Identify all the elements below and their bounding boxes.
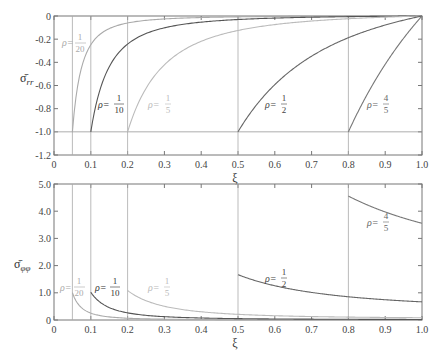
svg-text:1: 1	[117, 93, 122, 103]
label-rho-1-2-bottom: ρ=	[264, 273, 277, 284]
svg-text:5: 5	[384, 223, 389, 233]
curve-ρ=1/10	[91, 16, 422, 132]
curve-ρ=1/20	[72, 293, 422, 320]
label-rho-4-5-bottom: ρ=	[366, 217, 379, 228]
label-rho-4-5-top: ρ=	[366, 99, 379, 110]
x-tick-label: 0.2	[121, 159, 134, 170]
y-tick-label: -0.8	[35, 103, 51, 114]
curve-ρ=1/20	[72, 16, 422, 132]
x-tick-label: 0.4	[195, 159, 208, 170]
svg-text:4: 4	[384, 211, 389, 221]
bottom-curve-labels: ρ= 1 20 ρ= 1 10 ρ= 1 5 ρ= 1 2 ρ= 4 5	[59, 211, 389, 298]
bottom-curves	[72, 196, 422, 320]
y-tick-label: -0.4	[35, 57, 51, 68]
x-tick-label: 0.3	[158, 159, 171, 170]
svg-text:1: 1	[282, 267, 287, 277]
sigma-phiphi-plot: 01.02.03.04.05.0 00.10.20.30.40.50.60.70…	[14, 179, 428, 351]
y-tick-label: 0	[46, 315, 51, 326]
label-rho-1-10-top: ρ=	[97, 99, 110, 110]
x-tick-label: 0.7	[305, 324, 318, 335]
x-tick-label: 0.4	[195, 324, 208, 335]
svg-text:1: 1	[77, 276, 82, 286]
curve-ρ=1/5	[128, 16, 422, 132]
y-tick-label: 4.0	[39, 206, 52, 217]
label-rho-1-5-top: ρ=	[147, 99, 160, 110]
x-tick-label: 0.9	[379, 324, 392, 335]
top-y-axis-label: σ̄rr	[20, 71, 34, 87]
x-tick-label: 0.5	[232, 159, 245, 170]
top-x-axis-label: ξ	[232, 171, 238, 185]
svg-text:5: 5	[384, 105, 389, 115]
x-tick-label: 0.9	[379, 159, 392, 170]
label-rho-1-10-bottom: ρ=	[94, 282, 107, 293]
svg-text:1: 1	[165, 276, 170, 286]
svg-text:1: 1	[282, 93, 287, 103]
x-tick-label: 0.8	[342, 324, 355, 335]
x-tick-label: 0.3	[158, 324, 171, 335]
x-tick-label: 0.5	[232, 324, 245, 335]
label-rho-1-5-bottom: ρ=	[147, 282, 160, 293]
x-tick-label: 0.2	[121, 324, 134, 335]
x-tick-label: 0	[52, 324, 57, 335]
bottom-y-axis: 01.02.03.04.05.0	[39, 179, 423, 326]
y-tick-label: 3.0	[39, 233, 52, 244]
svg-text:1: 1	[166, 93, 171, 103]
x-tick-label: 0	[52, 159, 57, 170]
svg-text:1: 1	[113, 276, 118, 286]
top-reference-lines	[54, 16, 422, 155]
y-tick-label: 2.0	[39, 260, 52, 271]
top-curve-labels: ρ= 1 20 ρ= 1 10 ρ= 1 5 ρ= 1 2 ρ= 4 5	[61, 32, 389, 115]
bottom-x-axis-label: ξ	[232, 336, 238, 350]
curve-ρ=1/5	[128, 291, 422, 318]
x-tick-label: 0.1	[85, 159, 98, 170]
y-tick-label: 5.0	[39, 179, 52, 190]
y-tick-label: 0	[46, 11, 51, 22]
stress-distribution-figure: 0-0.2-0.4-0.6-0.8-1.0-1.2 00.10.20.30.40…	[0, 0, 446, 359]
label-frac-num: 1	[78, 32, 83, 42]
x-tick-label: 0.6	[269, 159, 282, 170]
y-tick-label: 1.0	[39, 287, 52, 298]
curve-ρ=1/2	[238, 16, 422, 132]
y-tick-label: -1.0	[35, 126, 51, 137]
svg-text:5: 5	[165, 288, 170, 298]
svg-text:4: 4	[384, 93, 389, 103]
svg-text:2: 2	[282, 105, 287, 115]
bottom-reference-lines	[72, 184, 348, 320]
x-tick-label: 0.7	[305, 159, 318, 170]
x-tick-label: 0.8	[342, 159, 355, 170]
svg-text:5: 5	[166, 105, 171, 115]
label-frac-den: 20	[76, 44, 86, 54]
label-rho-1-2-top: ρ=	[264, 99, 277, 110]
bottom-y-axis-label: σ̄φφ	[14, 257, 30, 273]
y-tick-label: -0.2	[35, 34, 51, 45]
x-tick-label: 0.1	[85, 324, 98, 335]
svg-text:10: 10	[115, 105, 125, 115]
y-tick-label: -1.2	[35, 150, 51, 161]
label-rho-1-20-bottom: ρ=	[59, 282, 72, 293]
x-tick-label: 1.0	[416, 159, 429, 170]
top-curves	[72, 16, 422, 132]
top-x-axis: 00.10.20.30.40.50.60.70.80.91.0	[52, 16, 429, 170]
x-tick-label: 0.6	[269, 324, 282, 335]
y-tick-label: -0.6	[35, 80, 51, 91]
label-rho-1-20-top: ρ=	[61, 37, 74, 48]
svg-text:2: 2	[282, 279, 287, 289]
svg-text:20: 20	[75, 288, 85, 298]
svg-text:10: 10	[111, 288, 121, 298]
x-tick-label: 1.0	[416, 324, 429, 335]
